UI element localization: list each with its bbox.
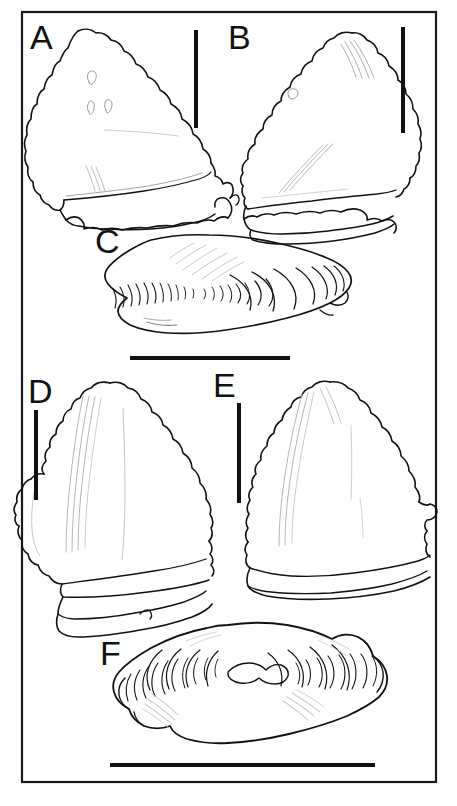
panel-label-f: F <box>100 634 121 672</box>
panel-label-b: B <box>228 18 251 56</box>
panel-label-a: A <box>30 18 53 56</box>
plate-canvas: A B C D E F <box>0 0 457 806</box>
figure-plate: A B C D E F <box>0 0 457 806</box>
panel-label-d: D <box>28 372 53 410</box>
panel-label-c: C <box>95 222 120 260</box>
panel-label-e: E <box>213 366 236 404</box>
